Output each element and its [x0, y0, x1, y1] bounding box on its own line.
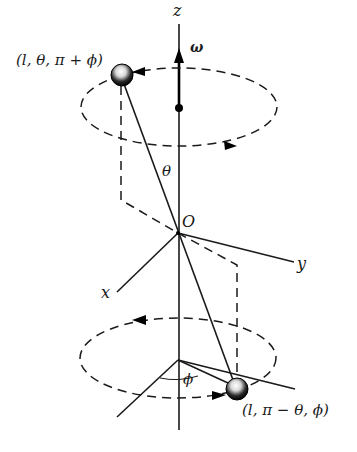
lower-mass-label: (l, π − θ, ϕ): [242, 403, 329, 418]
upper-mass-ball: [111, 64, 133, 86]
upper-mass-arrow-icon: [132, 67, 145, 76]
x-axis-label: x: [101, 285, 110, 301]
upper-projection-dashed: [121, 86, 178, 233]
y-axis: [178, 233, 294, 262]
z-axis-label: z: [173, 3, 181, 19]
lower-mass-arrow-icon: [212, 391, 226, 400]
lower-mass-ball: [226, 378, 248, 400]
upper-orbit-arrow-icon: [224, 141, 237, 150]
origin-point: [176, 231, 180, 235]
lower-orbit-arrow-icon: [132, 315, 146, 325]
upper-mass-label: (l, θ, π + ϕ): [16, 53, 103, 68]
theta-label: θ: [162, 164, 171, 179]
upper-center-dot: [175, 104, 183, 112]
origin-label: O: [182, 214, 195, 230]
y-axis-label: y: [297, 256, 306, 272]
phi-label: ϕ: [183, 372, 193, 387]
x-axis: [117, 233, 178, 292]
omega-label: ω: [190, 40, 203, 54]
lower-x-parallel: [117, 360, 178, 417]
omega-arrowhead-icon: [174, 48, 184, 63]
